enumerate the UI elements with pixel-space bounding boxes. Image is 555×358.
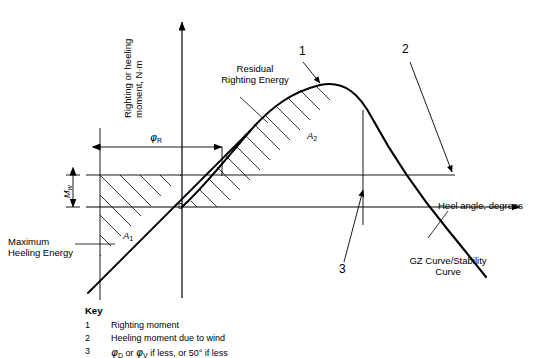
area-a1-subscript: 1 <box>129 235 133 242</box>
key-item-1-number: 1 <box>85 319 111 332</box>
y-axis-label-line1: Righting or heeling <box>122 39 133 118</box>
area-a2-subscript: 2 <box>313 135 317 142</box>
residual-label-line2: Righting Energy <box>205 74 305 85</box>
key-item-3: 3 φD or φV if less, or 50° if less <box>85 345 345 358</box>
key-legend: Key 1 Righting moment 2 Heeling moment d… <box>85 305 345 358</box>
key-item3-tail: if less, or 50° if less <box>148 348 228 358</box>
key-title: Key <box>85 305 345 316</box>
callout-2-label: 2 <box>402 42 409 56</box>
key-item-1: 1 Righting moment <box>85 319 345 332</box>
gz-curve-label-line2: Curve <box>383 266 513 277</box>
key-item-2: 2 Heeling moment due to wind <box>85 332 345 345</box>
gz-curve <box>182 84 486 277</box>
mw-subscript: w <box>66 185 73 190</box>
stability-curve-diagram: Righting or heeling moment, N·m Heel ang… <box>0 0 555 358</box>
maximum-heeling-energy-label: Maximum Heeling Energy <box>8 236 73 258</box>
residual-righting-energy-label: Residual Righting Energy <box>205 63 305 85</box>
leader-residual-energy <box>240 97 268 123</box>
phi-symbol: φ <box>150 131 157 143</box>
phi-r-dimension <box>100 147 222 176</box>
origin-label: 0 <box>178 201 183 212</box>
key-item3-mid: or <box>123 348 136 358</box>
heeling-moment-mw-label: Mw <box>62 185 74 198</box>
area-a1-label: A1 <box>123 230 133 243</box>
hatching-area-2 <box>110 0 370 220</box>
phi-r-label: φR <box>150 131 162 145</box>
leader-gz-curve <box>428 211 448 238</box>
max-heeling-label-line1: Maximum <box>8 236 73 247</box>
gz-curve-label-line1: GZ Curve/Stability <box>383 255 513 266</box>
area-a2-label: A2 <box>307 130 317 143</box>
key-item-2-number: 2 <box>85 332 111 345</box>
gz-curve-label: GZ Curve/Stability Curve <box>383 255 513 277</box>
y-axis-label-line2: moment, N·m <box>133 39 144 118</box>
y-axis-label: Righting or heeling moment, N·m <box>122 39 144 118</box>
phi-subscript: R <box>157 137 162 144</box>
leader-callout-1 <box>303 62 320 83</box>
heeling-moment-line-visible <box>88 131 250 293</box>
max-heeling-label-line2: Heeling Energy <box>8 247 73 258</box>
mw-symbol: M <box>62 191 72 199</box>
callout-1-label: 1 <box>299 44 306 58</box>
key-item-1-text: Righting moment <box>111 319 345 332</box>
key-item-3-text: φD or φV if less, or 50° if less <box>111 345 345 358</box>
key-item-2-text: Heeling moment due to wind <box>111 332 345 345</box>
residual-label-line1: Residual <box>205 63 305 74</box>
key-phi-v-symbol: φ <box>136 346 143 358</box>
key-phi-d-symbol: φ <box>111 346 118 358</box>
leader-callout-2 <box>410 62 452 172</box>
leader-callout-3 <box>344 190 363 262</box>
callout-3-label: 3 <box>339 262 346 276</box>
x-axis-label: Heel angle, degrees <box>438 200 523 211</box>
key-item-3-number: 3 <box>85 345 111 358</box>
